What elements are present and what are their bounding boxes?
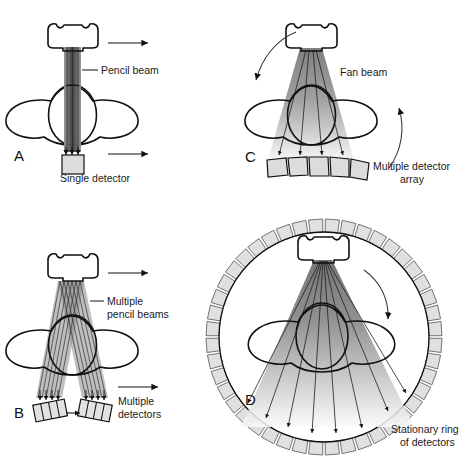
ring-detector-segment xyxy=(276,433,293,450)
ring-detector-segment xyxy=(309,441,323,455)
ring-detector-segment xyxy=(355,224,372,241)
multiple-detector-array xyxy=(267,157,369,180)
label-multiple-beams-line1: Multiple xyxy=(107,295,143,307)
detector-bank-left xyxy=(33,399,68,422)
label-multiple-detectors-line2: detectors xyxy=(118,408,161,420)
ring-detector-segment xyxy=(428,322,442,336)
label-stationary-ring-line1: Stationary ring xyxy=(391,423,459,435)
ring-detector-segment xyxy=(206,338,220,352)
label-multiple-detectors-line1: Multiple xyxy=(118,395,154,407)
ring-detector-segment xyxy=(206,322,220,336)
ring-detector-segment xyxy=(309,219,323,233)
label-detector-array-line1: Multiple detector xyxy=(373,160,451,172)
figure-canvas: Pencil beam Single detector A xyxy=(0,0,472,460)
ring-detector-segment xyxy=(428,338,442,352)
label-fan-beam: Fan beam xyxy=(340,66,388,78)
label-stationary-ring-line2: of detectors xyxy=(400,436,455,448)
rotation-arrow-left-icon xyxy=(256,32,296,80)
label-single-detector: Single detector xyxy=(60,172,131,184)
label-detector-array-line2: array xyxy=(400,173,425,185)
panel-letter-d: D xyxy=(245,391,256,408)
ring-detector-segment xyxy=(420,289,437,306)
ct-generations-figure: Pencil beam Single detector A xyxy=(0,0,472,460)
rotation-arrow-right-icon xyxy=(389,108,402,168)
fan-beam xyxy=(268,48,354,160)
fan-beam xyxy=(241,260,414,427)
ring-detector-segment xyxy=(211,289,228,306)
detector-bank-right xyxy=(78,399,113,422)
ring-detector-segment xyxy=(355,433,372,450)
panel-letter-b: B xyxy=(14,404,24,421)
panel-d: Stationary ring of detectors D xyxy=(206,219,459,455)
label-multiple-beams-line2: pencil beams xyxy=(107,308,169,320)
xray-tube-icon xyxy=(48,254,98,281)
xray-tube-icon xyxy=(48,24,98,51)
ring-detector-segment xyxy=(325,441,339,455)
rotation-arrow-icon xyxy=(364,270,388,319)
xray-tube-icon xyxy=(298,236,349,263)
multiple-pencil-beams xyxy=(36,281,108,398)
ring-detector-segment xyxy=(420,368,437,385)
label-pencil-beam: Pencil beam xyxy=(101,64,159,76)
ring-detector-segment xyxy=(325,219,339,233)
xray-tube-icon xyxy=(286,24,337,51)
panel-letter-c: C xyxy=(245,148,256,165)
panel-c: Fan beam Multiple detector array C xyxy=(245,24,451,185)
ring-detector-segment xyxy=(276,224,293,241)
panel-a: Pencil beam Single detector A xyxy=(6,24,159,184)
ring-detector-segment xyxy=(211,368,228,385)
panel-b: Multiple pencil beams Multiple detectors… xyxy=(6,254,169,422)
panel-letter-a: A xyxy=(14,147,24,164)
